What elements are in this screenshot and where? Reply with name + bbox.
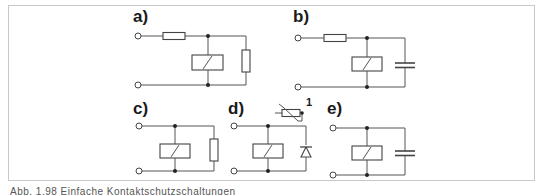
junction-dot-icon [266,169,270,173]
relay-coil-icon [192,55,223,70]
relay-coil-icon [160,144,190,158]
terminal-icon [135,33,141,39]
parallel-capacitor-icon [395,151,415,156]
terminal-icon [295,35,301,41]
junction-dot-icon [173,169,177,173]
panel-c: c) [133,99,218,174]
terminal-icon [231,123,237,129]
panel-e: e) [327,99,415,178]
terminal-icon [135,82,141,88]
panel-label-a: a) [133,7,148,26]
relay-coil-icon [253,144,283,158]
panel-b: b) [293,7,415,90]
junction-dot-icon [206,34,210,38]
junction-dot-icon [365,36,369,40]
circuit-diagram: .w { stroke: #555; stroke-width: 1; fill… [0,0,547,195]
figure-caption: Abb. 1.98 Einfache Kontaktschutzschaltun… [10,186,236,195]
annotation-number: 1 [306,96,312,108]
relay-coil-icon [352,146,382,160]
junction-dot-icon [173,124,177,128]
parallel-resistor-icon [242,50,250,72]
panel-d: d) 1 [228,96,312,174]
panel-label-e: e) [327,99,342,118]
junction-dot-icon [365,173,369,177]
thermistor-icon [275,104,304,121]
terminal-icon [136,123,142,129]
panel-label-d: d) [228,99,244,118]
junction-dot-icon [365,85,369,89]
parallel-capacitor-icon [395,63,415,68]
junction-dot-icon [206,83,210,87]
terminal-icon [231,168,237,174]
series-resistor-icon [163,33,185,40]
terminal-icon [330,172,336,178]
terminal-icon [136,168,142,174]
terminal-icon [295,84,301,90]
parallel-diode-icon [300,147,312,157]
series-resistor-icon [324,35,346,42]
parallel-resistor-icon [210,139,218,161]
panel-a: a) [133,7,250,88]
panel-label-c: c) [133,99,148,118]
panel-label-b: b) [293,7,309,26]
relay-coil-icon [352,57,382,71]
junction-dot-icon [266,124,270,128]
junction-dot-icon [365,126,369,130]
terminal-icon [330,125,336,131]
